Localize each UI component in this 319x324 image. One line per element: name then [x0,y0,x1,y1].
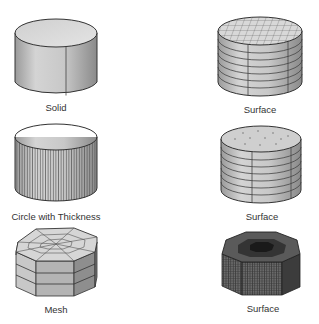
figure-circle-thickness: Circle with Thickness [0,110,160,220]
surface-grid-cylinder-icon [160,0,319,110]
figure-solid: Solid [0,0,160,110]
figure-surface-open: Surface [160,110,319,220]
label-surface-dense: Surface [243,303,283,314]
label-mesh: Mesh [36,304,76,315]
figure-mesh: Mesh [0,215,160,324]
surface-dense-octagon-icon [160,215,319,324]
solid-cylinder-icon [0,0,160,110]
figure-surface-dense: Surface [160,215,319,324]
surface-open-cylinder-icon [160,110,319,220]
mesh-octagon-icon [0,215,160,324]
circle-thickness-cylinder-icon [0,110,160,220]
figure-surface-grid: Surface [160,0,319,110]
